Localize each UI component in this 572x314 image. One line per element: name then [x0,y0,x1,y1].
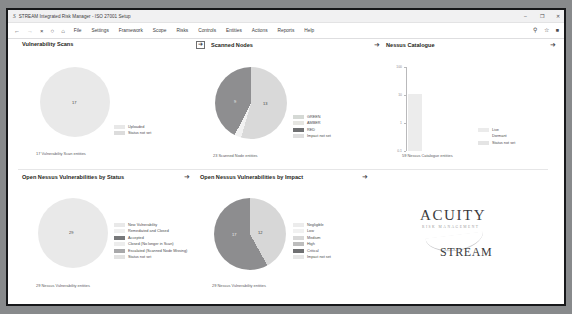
maximize-button[interactable]: ❐ [538,14,545,19]
panel-nessus-catalogue: ➜ Nessus Catalogue ➜ 100 10 1 0.1 Live [374,41,560,169]
axis-tick-label: 10 [390,93,402,97]
legend-label: Escalated (Scanned Node Missing) [128,249,187,253]
pie-slice-label: 17 [72,100,76,105]
legend-label: Uploaded [128,125,144,129]
legend-item: Status not set [114,131,151,135]
legend-item: Live [478,128,515,132]
pie-chart-scanned-nodes[interactable] [215,67,287,139]
legend-vulnerability-scans: Uploaded Status not set [114,125,151,135]
legend-item: RED [293,128,331,132]
legend-swatch [293,128,304,132]
panel-body: 29 New Vulnerability Remediated and Clos… [18,180,196,308]
legend-swatch [114,223,125,227]
legend-item: High [293,242,331,246]
panel-title: Open Nessus Vulnerabilities by Impact [200,174,303,180]
acuity-tagline: RISK MANAGEMENT [422,225,480,229]
axis-tick [404,123,406,124]
stream-logo: STREAM [440,245,492,260]
next-panel-arrow-icon[interactable]: ➜ [362,173,368,180]
legend-swatch [114,131,125,135]
pie-slice-label: 12 [258,230,262,235]
toolbar-icons: ⚲ ☆ ■ [533,23,559,39]
legend-open-nessus-vulnerabilities-by-status: New Vulnerability Remediated and Closed … [114,223,187,259]
axis-tick-label: 0.1 [388,149,402,153]
panel-vulnerability-scans: Vulnerability Scans 17 Uploaded Status n… [18,41,196,169]
legend-swatch [114,255,125,259]
search-icon[interactable]: ⚲ [533,28,537,34]
stop-icon[interactable]: × [40,28,44,34]
dashboard-content: Vulnerability Scans 17 Uploaded Status n… [8,39,564,304]
legend-item: Critical [293,249,331,253]
minimize-button[interactable]: – [522,14,529,19]
application-window: S STREAM Integrated Risk Manager - ISO 2… [6,8,566,306]
window-controls: – ❐ ✕ [522,10,561,23]
panel-body: 17 Uploaded Status not set 17 Vulnerabil… [18,47,196,175]
menu-item-framework[interactable]: Framework [119,28,143,33]
legend-item: Status not set [114,255,187,259]
panel-header: ➜ Nessus Catalogue ➜ [374,41,560,48]
legend-swatch [293,249,304,253]
pie-slice-label: 13 [263,101,267,106]
menu-item-actions[interactable]: Actions [252,28,268,33]
favorite-icon[interactable]: ☆ [544,28,549,34]
panel-title: Nessus Catalogue [386,42,435,48]
legend-label: Closed (No longer in Scan) [128,242,174,246]
panel-title: Scanned Nodes [211,42,253,48]
legend-item: GREEN [293,115,331,119]
home-icon[interactable]: ⌂ [61,28,65,34]
panel-caption: 29 Nessus Vulnerability entities [36,283,90,288]
forward-icon[interactable]: → [27,28,33,34]
menu-item-help[interactable]: Help [304,28,314,33]
bar-chart-axis [406,67,407,151]
legend-item: Impact not set [293,255,331,259]
legend-open-nessus-vulnerabilities-by-impact: Negligible Low Medium High [293,223,331,259]
menu-item-scope[interactable]: Scope [153,28,167,33]
menu-item-entities[interactable]: Entities [226,28,242,33]
legend-item: Accepted [114,236,187,240]
legend-swatch [293,229,304,233]
panel-caption: 17 Vulnerability Scan entities [36,151,86,156]
panel-open-nessus-vulnerabilities-by-impact: Open Nessus Vulnerabilities by Impact ➜ … [196,173,374,301]
close-button[interactable]: ✕ [554,14,561,19]
navigation-controls: ← → × ○ ⌂ [14,28,65,34]
legend-swatch [293,223,304,227]
bar-live[interactable] [408,94,422,151]
reload-icon[interactable]: ○ [51,28,55,34]
axis-tick-label: 100 [390,65,402,69]
panel-body: 12 17 Negligible Low Medium [196,180,374,308]
legend-swatch [293,134,304,138]
legend-label: Live [492,128,499,132]
legend-scanned-nodes: GREEN AMBER RED Impact not set [293,115,331,138]
menu-item-risks[interactable]: Risks [176,28,188,33]
title-bar: S STREAM Integrated Risk Manager - ISO 2… [8,10,564,23]
previous-panel-arrow-icon[interactable]: ➜ [374,41,380,48]
legend-swatch [293,121,304,125]
legend-label: AMBER [307,121,321,125]
legend-label: Status not set [492,141,515,145]
menu-item-file[interactable]: File [74,28,82,33]
previous-panel-arrow-icon[interactable]: ➜ [196,41,205,49]
legend-item: Impact not set [293,134,331,138]
legend-swatch [478,128,489,132]
back-icon[interactable]: ← [14,28,20,34]
legend-label: Status not set [128,255,151,259]
pie-chart-open-nessus-vulnerabilities-by-impact[interactable] [214,198,286,270]
legend-swatch [293,242,304,246]
axis-tick [404,151,406,152]
acuity-logo: ACUITY [420,207,486,224]
legend-swatch [293,255,304,259]
app-icon: S [13,13,16,19]
profile-icon[interactable]: ■ [556,28,559,34]
menu-item-controls[interactable]: Controls [198,28,216,33]
legend-item: Medium [293,236,331,240]
legend-label: Impact not set [307,134,331,138]
legend-label: Impact not set [307,255,331,259]
menu-item-settings[interactable]: Settings [92,28,109,33]
legend-label: Low [307,229,314,233]
next-panel-arrow-icon[interactable]: ➜ [184,173,190,180]
panel-caption: 23 Scanned Node entities [213,153,258,158]
next-panel-arrow-icon[interactable]: ➜ [550,41,556,48]
legend-swatch [478,134,489,138]
panel-header: Open Nessus Vulnerabilities by Status ➜ [18,173,196,180]
menu-item-reports[interactable]: Reports [278,28,295,33]
